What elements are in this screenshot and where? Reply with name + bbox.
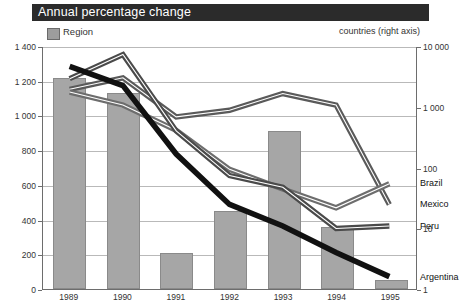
x-axis-tick-label-1994: 1994 [317,292,357,302]
chart-title-bar: Annual percentage change [32,4,429,21]
x-axis-tick-label-1993: 1993 [263,292,303,302]
right-axis-tick-label: 1 [423,285,459,295]
left-axis-tick-label: 400 [0,216,36,226]
chart-figure: Annual percentage change Region countrie… [0,0,459,306]
right-axis-tick-mark [417,108,421,109]
left-axis-tick-mark [38,186,42,187]
left-axis-tick-label: 1 000 [0,111,36,121]
x-axis-tick-label-1991: 1991 [156,292,196,302]
left-axis-tick-label: 1 200 [0,77,36,87]
left-axis-tick-label: 600 [0,181,36,191]
line-series-group [43,47,416,289]
series-end-label-mexico: Mexico [420,199,449,209]
left-axis-tick-mark [38,221,42,222]
right-axis-tick-label: 100 [423,164,459,174]
left-axis-tick-label: 800 [0,146,36,156]
x-axis-tick-label-1990: 1990 [102,292,142,302]
x-axis-tick-label-1989: 1989 [49,292,89,302]
left-axis-tick-label: 1 400 [0,42,36,52]
left-axis-tick-label: 200 [0,250,36,260]
right-axis-tick-label: 1 000 [423,103,459,113]
left-axis-tick-label: 0 [0,285,36,295]
left-axis-tick-mark [38,290,42,291]
right-axis-tick-mark [417,290,421,291]
x-axis-tick-label-1995: 1995 [370,292,410,302]
line-series-mexico [70,78,390,205]
legend-label-region: Region [63,26,93,37]
right-axis-tick-label: 10 000 [423,42,459,52]
page-title: Annual percentage change [38,5,191,19]
left-axis-tick-mark [38,82,42,83]
left-axis-tick-mark [38,255,42,256]
left-axis-tick-mark [38,116,42,117]
left-axis-tick-mark [38,47,42,48]
right-axis-note: countries (right axis) [339,26,420,36]
x-axis-tick-label-1992: 1992 [210,292,250,302]
plot-area [42,47,417,290]
left-axis-tick-mark [38,151,42,152]
series-end-label-argentina: Argentina [420,272,459,282]
series-end-label-peru: Peru [420,221,439,231]
legend-swatch-region [47,28,60,40]
series-end-label-brazil: Brazil [420,178,443,188]
right-axis-tick-mark [417,47,421,48]
right-axis-tick-mark [417,169,421,170]
